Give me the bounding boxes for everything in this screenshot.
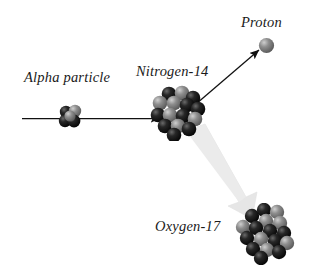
oxygen-17-label: Oxygen-17 [155,219,220,234]
nitrogen-14-nucleus [150,85,206,141]
proton-label: Proton [241,15,282,30]
oxygen-17-nucleus [235,203,297,265]
nitrogen-14-label: Nitrogen-14 [136,64,209,79]
alpha-particle-nucleus [58,104,84,130]
proton-single [258,37,275,54]
nuclear-reaction-diagram: Alpha particle Nitrogen-14 Proton Oxygen… [0,0,312,269]
alpha-particle-label: Alpha particle [24,70,110,85]
